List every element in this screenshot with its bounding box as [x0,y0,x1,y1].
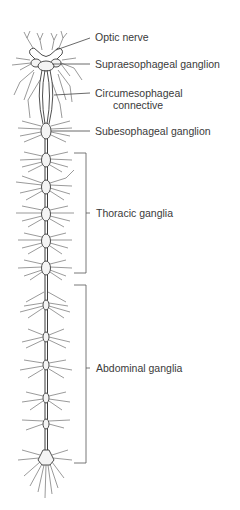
abdominal-bracket [74,285,90,463]
label-supraesophageal-ganglion: Supraesophageal ganglion [95,58,220,70]
optic-nerve-leader [56,38,90,50]
label-circumesophageal-line2: connective [113,99,163,111]
circumesophageal-leader [54,93,90,95]
label-subesophageal-ganglion: Subesophageal ganglion [95,125,211,137]
label-thoracic-ganglia: Thoracic ganglia [96,207,173,219]
circumesophageal-connective-shape [28,70,62,124]
nervous-system-diagram [0,0,240,510]
label-abdominal-ganglia: Abdominal ganglia [96,362,182,374]
thoracic-bracket [74,153,90,273]
supraesophageal-ganglion-shape [12,31,82,102]
label-circumesophageal-line1: Circumesophageal [95,87,183,99]
label-optic-nerve: Optic nerve [95,31,149,43]
ventral-nerve-cord [45,124,48,455]
